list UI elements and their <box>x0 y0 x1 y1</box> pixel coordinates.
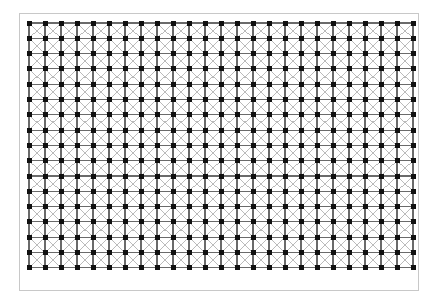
mesh-node <box>395 97 400 102</box>
mesh-node <box>203 265 208 270</box>
mesh-node <box>379 82 384 87</box>
mesh-node <box>299 82 304 87</box>
mesh-node <box>187 158 192 163</box>
mesh-node <box>347 174 352 179</box>
mesh-node <box>219 112 224 117</box>
mesh-node <box>187 66 192 71</box>
mesh-node <box>331 112 336 117</box>
mesh-node <box>91 219 96 224</box>
mesh-node <box>43 219 48 224</box>
mesh-node <box>139 112 144 117</box>
mesh-node <box>171 66 176 71</box>
mesh-grid-canvas <box>20 14 418 290</box>
mesh-node <box>91 265 96 270</box>
mesh-node <box>267 82 272 87</box>
mesh-node <box>59 219 64 224</box>
mesh-node <box>395 143 400 148</box>
mesh-node <box>139 174 144 179</box>
mesh-node <box>299 128 304 133</box>
mesh-node <box>123 97 128 102</box>
mesh-node <box>123 143 128 148</box>
mesh-node <box>43 235 48 240</box>
mesh-node <box>283 250 288 255</box>
mesh-node <box>91 66 96 71</box>
mesh-node <box>219 36 224 41</box>
mesh-node <box>203 204 208 209</box>
mesh-node <box>331 189 336 194</box>
mesh-node <box>43 66 48 71</box>
mesh-node <box>59 250 64 255</box>
mesh-node <box>395 128 400 133</box>
mesh-node <box>203 143 208 148</box>
mesh-node <box>251 235 256 240</box>
mesh-node <box>43 82 48 87</box>
mesh-node <box>203 97 208 102</box>
mesh-node <box>203 174 208 179</box>
mesh-node <box>107 21 112 26</box>
mesh-node <box>203 235 208 240</box>
mesh-node <box>219 189 224 194</box>
mesh-node <box>107 189 112 194</box>
mesh-node <box>155 219 160 224</box>
mesh-node <box>91 158 96 163</box>
mesh-node <box>187 112 192 117</box>
mesh-node <box>283 143 288 148</box>
mesh-node <box>203 82 208 87</box>
mesh-node <box>123 189 128 194</box>
mesh-node <box>379 204 384 209</box>
mesh-node <box>123 82 128 87</box>
mesh-node <box>107 36 112 41</box>
mesh-node <box>395 219 400 224</box>
mesh-node <box>187 250 192 255</box>
mesh-node <box>283 204 288 209</box>
mesh-node <box>283 112 288 117</box>
mesh-node <box>315 174 320 179</box>
mesh-node <box>283 51 288 56</box>
mesh-node <box>219 158 224 163</box>
mesh-node <box>219 174 224 179</box>
mesh-node <box>331 51 336 56</box>
mesh-node <box>331 143 336 148</box>
mesh-node <box>219 97 224 102</box>
mesh-node <box>411 97 416 102</box>
mesh-node <box>43 112 48 117</box>
mesh-node <box>315 265 320 270</box>
mesh-node <box>315 250 320 255</box>
mesh-node <box>363 36 368 41</box>
mesh-node <box>347 51 352 56</box>
mesh-node <box>411 51 416 56</box>
mesh-node <box>235 219 240 224</box>
mesh-node <box>267 128 272 133</box>
mesh-node <box>107 128 112 133</box>
mesh-node <box>27 219 32 224</box>
mesh-node <box>299 189 304 194</box>
mesh-node <box>155 21 160 26</box>
mesh-node <box>363 97 368 102</box>
mesh-node <box>235 189 240 194</box>
mesh-node <box>219 219 224 224</box>
mesh-node <box>27 128 32 133</box>
mesh-node <box>363 158 368 163</box>
mesh-plot-frame <box>19 13 419 291</box>
mesh-node <box>203 51 208 56</box>
mesh-node <box>171 158 176 163</box>
mesh-node <box>43 21 48 26</box>
mesh-node <box>171 189 176 194</box>
mesh-node <box>411 66 416 71</box>
mesh-node <box>43 250 48 255</box>
mesh-node <box>75 250 80 255</box>
mesh-node <box>91 112 96 117</box>
mesh-node <box>171 82 176 87</box>
mesh-node <box>187 82 192 87</box>
mesh-node <box>235 143 240 148</box>
mesh-node <box>155 235 160 240</box>
mesh-node <box>379 143 384 148</box>
mesh-node <box>59 265 64 270</box>
mesh-node <box>251 66 256 71</box>
mesh-node <box>187 97 192 102</box>
mesh-node <box>107 174 112 179</box>
mesh-node <box>347 143 352 148</box>
mesh-node <box>283 97 288 102</box>
mesh-node <box>411 128 416 133</box>
mesh-node <box>27 265 32 270</box>
